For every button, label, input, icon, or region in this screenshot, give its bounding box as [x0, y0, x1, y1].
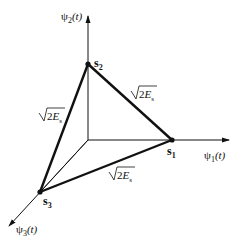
svg-text:2Es: 2Es: [139, 88, 154, 103]
constellation-diagram: s2 s1 s3 ψ2(t) ψ1(t) ψ3(t) 2Es 2Es 2Es: [0, 0, 241, 242]
label-s3: s3: [43, 194, 52, 210]
s3-projection-line: [40, 140, 88, 192]
point-s1: [169, 137, 174, 142]
label-psi2-axis: ψ2(t): [61, 10, 83, 25]
label-s2: s2: [94, 56, 103, 72]
svg-text:2Es: 2Es: [117, 169, 132, 184]
edge-s2-s1: [88, 64, 172, 140]
edge-label-s3-s1: 2Es: [109, 167, 135, 184]
edge-s3-s1: [40, 140, 172, 192]
label-s1: s1: [167, 144, 176, 160]
triangle-edges: [40, 64, 172, 192]
label-psi3-axis: ψ3(t): [16, 223, 38, 238]
point-s2: [85, 61, 90, 66]
edge-s2-s3: [40, 64, 88, 192]
edge-label-s2-s3: 2Es: [39, 108, 65, 125]
edge-label-s2-s1: 2Es: [131, 86, 157, 103]
label-psi1-axis: ψ1(t): [204, 149, 226, 164]
svg-text:2Es: 2Es: [47, 110, 62, 125]
axes: [9, 16, 229, 226]
point-s3: [37, 189, 42, 194]
